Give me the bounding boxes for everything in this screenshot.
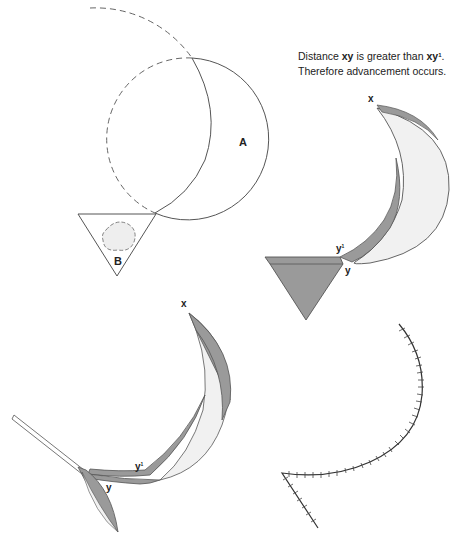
label-x-top: x (368, 93, 374, 104)
caption-suffix: . (441, 50, 444, 62)
label-x-bottom: x (181, 298, 187, 309)
panel-circle-triangle: A B (78, 8, 269, 276)
hatched-curve (282, 324, 422, 528)
caption-line-2: Therefore advancement occurs. (298, 64, 463, 79)
caption-line-1: Distance xy is greater than xy1. (298, 49, 463, 64)
label-y-top: y (345, 265, 351, 276)
label-a: A (239, 136, 247, 148)
caption-mid: is greater than (353, 50, 426, 62)
caption-text: Distance xy is greater than xy1. Therefo… (298, 49, 463, 79)
rod (12, 415, 84, 474)
label-y1-top: y1 (336, 243, 345, 254)
caption-xy1: xy1 (426, 50, 441, 62)
triangle-dark (265, 257, 343, 320)
label-b: B (114, 255, 122, 267)
circle-a-solid-half (155, 58, 269, 220)
inner-solid-arc (155, 58, 211, 213)
advancement-diagram: A B x y1 y x y1 y (0, 0, 463, 546)
panel-crescent-initial: x y1 y (265, 93, 449, 320)
caption-xy: xy (342, 50, 354, 62)
label-y-bottom: y (106, 482, 112, 493)
circle-a-dashed-half (107, 58, 192, 213)
large-dashed-arc (90, 8, 192, 58)
caption-prefix: Distance (298, 50, 342, 62)
panel-crescent-advanced: x y1 y (12, 298, 231, 532)
hatch-marks (283, 328, 424, 522)
panel-hatched-curve (282, 324, 424, 528)
